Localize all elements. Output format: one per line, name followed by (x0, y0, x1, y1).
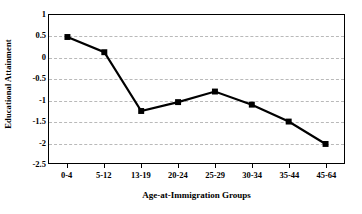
x-tick-mark (67, 164, 68, 168)
x-axis-tick-marks (48, 164, 345, 170)
x-tick-label: 30-34 (242, 171, 262, 180)
data-point-marker (64, 34, 70, 40)
data-point-marker (212, 89, 218, 95)
data-series (49, 15, 344, 163)
x-tick-label: 25-29 (205, 171, 225, 180)
x-tick-label: 35-44 (279, 171, 299, 180)
x-tick-mark (289, 164, 290, 168)
y-tick-label: -1 (20, 95, 46, 104)
data-point-marker (101, 49, 107, 55)
x-tick-mark (141, 164, 142, 168)
data-point-marker (323, 141, 329, 147)
x-tick-label: 13-19 (131, 171, 151, 180)
x-tick-label: 45-64 (317, 171, 337, 180)
y-tick-label: -2.5 (20, 160, 46, 169)
x-axis-tick-labels: 0-45-1213-1920-2425-2930-3435-4445-64 (48, 171, 345, 185)
y-tick-label: 1 (20, 10, 46, 19)
x-tick-label: 0-4 (61, 171, 72, 180)
x-tick-mark (326, 164, 327, 168)
x-tick-label: 5-12 (96, 171, 112, 180)
x-tick-mark (215, 164, 216, 168)
y-tick-label: -2 (20, 138, 46, 147)
y-axis-title: Educational Attainment (0, 0, 16, 168)
y-tick-label: 0 (20, 53, 46, 62)
x-tick-label: 20-24 (168, 171, 188, 180)
y-axis-title-text: Educational Attainment (3, 39, 13, 128)
line-chart: Educational Attainment 10.50-0.5-1-1.5-2… (0, 0, 362, 214)
data-point-marker (249, 102, 255, 108)
data-point-marker (175, 99, 181, 105)
y-axis-tick-labels: 10.50-0.5-1-1.5-2-2.5 (16, 0, 46, 214)
y-tick-label: 0.5 (20, 31, 46, 40)
data-point-marker (286, 119, 292, 125)
x-tick-mark (104, 164, 105, 168)
data-point-marker (138, 108, 144, 114)
y-tick-label: -1.5 (20, 117, 46, 126)
x-tick-mark (178, 164, 179, 168)
x-axis-title: Age-at-Immigration Groups (48, 190, 345, 200)
plot-area (48, 14, 345, 164)
x-tick-mark (252, 164, 253, 168)
y-tick-label: -0.5 (20, 74, 46, 83)
